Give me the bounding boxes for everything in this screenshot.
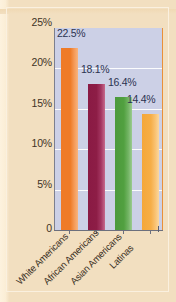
x-axis-line — [54, 230, 163, 231]
bar-white-americans[interactable] — [61, 48, 78, 230]
chart-page: 25% 20% 15% 10% 5% 0 22.5% 18.1% — [0, 0, 176, 302]
bar-fill — [88, 84, 105, 230]
bar-latinas[interactable] — [142, 114, 159, 230]
data-label-african-americans: 18.1% — [81, 63, 109, 75]
plot-right-border — [162, 28, 163, 231]
data-label-latinas: 14.4% — [127, 93, 155, 105]
y-tick-label: 20% — [6, 56, 52, 68]
data-label-white-americans: 22.5% — [57, 27, 85, 39]
data-label-asian-americans: 16.4% — [108, 76, 136, 88]
bar-fill — [115, 97, 132, 230]
bar-asian-americans[interactable] — [115, 97, 132, 230]
x-axis-labels: White Americans African Americans Asian … — [0, 232, 176, 302]
y-tick-label: 25% — [6, 16, 52, 28]
bar-fill — [61, 48, 78, 230]
y-tick-label: 15% — [6, 97, 52, 109]
plot-area — [55, 28, 163, 230]
bar-fill — [142, 114, 159, 230]
y-tick-label: 10% — [6, 137, 52, 149]
y-tick-label: 5% — [6, 178, 52, 190]
bar-african-americans[interactable] — [88, 84, 105, 230]
